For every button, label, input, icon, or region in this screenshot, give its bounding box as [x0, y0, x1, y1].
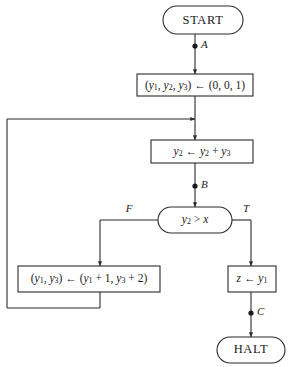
point-b-label: B [201, 178, 208, 190]
node-accumulate: y2 ← y2 + y3 [151, 140, 253, 163]
init-label: (y1, y2, y3) ← (0, 0, 1) [145, 79, 245, 92]
point-a-dot [192, 43, 197, 48]
point-c-label: C [257, 305, 265, 317]
branch-label-false: F [125, 202, 133, 214]
node-output: z ← y1 [228, 266, 276, 292]
node-halt: HALT [217, 337, 285, 363]
output-label: z ← y1 [236, 272, 268, 285]
node-test: y2 > x [158, 207, 232, 233]
halt-label: HALT [234, 342, 269, 356]
node-update: (y1, y3) ← (y1 + 1, y3 + 2) [18, 266, 160, 292]
branch-label-true: T [243, 202, 250, 214]
node-init: (y1, y2, y3) ← (0, 0, 1) [137, 74, 253, 96]
test-label: y2 > x [181, 213, 209, 226]
point-b-dot [192, 183, 197, 188]
flowchart-diagram: START A (y1, y2, y3) ← (0, 0, 1) y2 ← y2… [0, 0, 288, 367]
node-start: START [163, 6, 243, 34]
flowchart-canvas: START A (y1, y2, y3) ← (0, 0, 1) y2 ← y2… [0, 0, 288, 367]
point-c-dot [248, 310, 253, 315]
point-a-label: A [200, 38, 208, 50]
start-label: START [183, 13, 224, 27]
